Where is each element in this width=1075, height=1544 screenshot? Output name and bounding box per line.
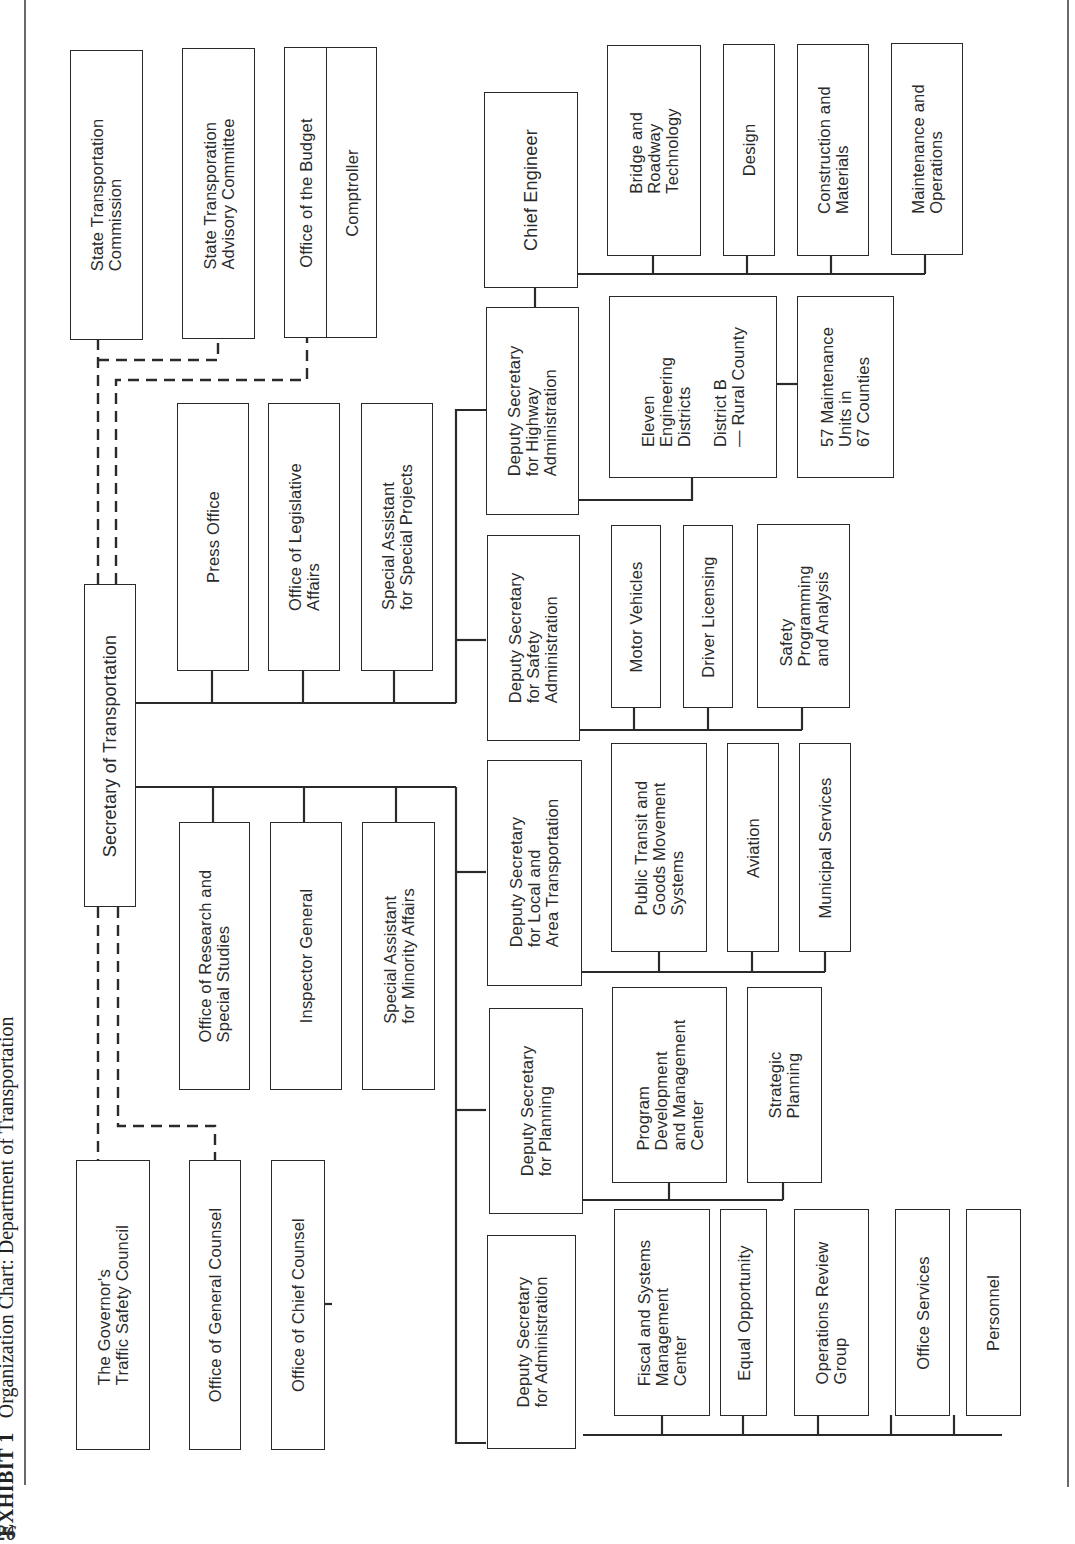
box-deputy-planning: Deputy Secretary for Planning	[489, 1008, 583, 1214]
box-fiscal-systems: Fiscal and Systems Management Center	[614, 1209, 710, 1416]
box-strategic-planning: Strategic Planning	[747, 987, 822, 1183]
box-operations-review: Operations Review Group	[794, 1209, 869, 1416]
box-maintenance-operations: Maintenance and Operations	[891, 43, 963, 255]
box-deputy-safety: Deputy Secretary for Safety Administrati…	[487, 535, 580, 741]
box-maintenance-units: 57 Maintenance Units in 67 Counties	[797, 296, 894, 478]
box-press-office: Press Office	[177, 403, 249, 671]
box-driver-licensing: Driver Licensing	[683, 525, 733, 708]
box-office-of-chief-counsel: Office of Chief Counsel	[271, 1160, 325, 1450]
box-chief-engineer: Chief Engineer	[484, 92, 578, 288]
box-office-of-legislative-affairs: Office of Legislative Affairs	[268, 403, 340, 671]
box-bridge-roadway-technology: Bridge and Roadway Technology	[607, 45, 701, 256]
box-office-services: Office Services	[895, 1209, 950, 1416]
box-office-of-research: Office of Research and Special Studies	[179, 822, 250, 1090]
box-inspector-general: Inspector General	[270, 822, 342, 1090]
box-comptroller: Comptroller	[326, 47, 377, 338]
box-design: Design	[723, 44, 775, 256]
box-special-assistant-minority-affairs: Special Assistant for Minority Affairs	[362, 822, 435, 1090]
box-state-transportation-advisory-committee: State Transporation Advisory Committee	[182, 48, 255, 339]
box-state-transportation-commission: State Transportation Commission	[70, 50, 143, 340]
box-office-of-the-budget: Office of the Budget	[284, 47, 328, 338]
box-deputy-highway: Deputy Secretary for Highway Administrat…	[486, 307, 579, 515]
box-construction-materials: Construction and Materials	[797, 44, 869, 256]
page-number: 26	[0, 1522, 16, 1544]
box-deputy-administration: Deputy Secretary for Administration	[487, 1235, 576, 1449]
box-engineering-districts: Eleven Engineering Districts District B …	[609, 296, 777, 478]
chart-title: Organization Chart: Department of Transp…	[0, 1016, 17, 1418]
box-motor-vehicles: Motor Vehicles	[611, 525, 661, 708]
box-special-assistant-special-projects: Special Assistant for Special Projects	[361, 403, 433, 671]
exhibit-title: EXHIBIT 1Organization Chart: Department …	[0, 1016, 18, 1537]
box-office-of-general-counsel: Office of General Counsel	[189, 1160, 241, 1450]
box-equal-opportunity: Equal Opportunity	[720, 1209, 767, 1416]
box-deputy-local-area: Deputy Secretary for Local and Area Tran…	[487, 760, 582, 986]
box-municipal-services: Municipal Services	[799, 743, 851, 952]
box-program-development: Program Development and Management Cente…	[612, 987, 727, 1183]
box-aviation: Aviation	[727, 743, 779, 952]
box-safety-programming: Safety Programming and Analysis	[757, 524, 850, 708]
box-personnel: Personnel	[966, 1209, 1021, 1416]
box-public-transit: Public Transit and Goods Movement System…	[611, 743, 707, 952]
box-governors-traffic-safety-council: The Governor's Traffic Safety Council	[76, 1160, 150, 1450]
box-secretary-of-transportation: Secretary of Transportation	[84, 584, 136, 907]
